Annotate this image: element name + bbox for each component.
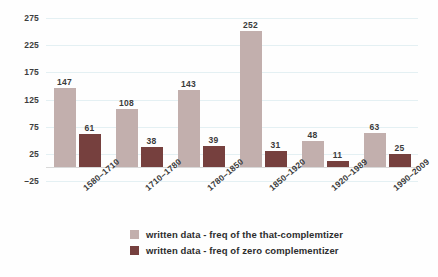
y-axis-tick-label: 175 xyxy=(24,67,39,77)
y-axis-tick-label: 275 xyxy=(24,13,39,23)
y-axis-tick-label: 25 xyxy=(29,149,39,159)
bar[interactable]: 143 xyxy=(178,90,200,168)
legend-swatch-icon xyxy=(130,246,139,255)
legend-item: written data - freq of zero complementiz… xyxy=(130,242,343,258)
bar-value-label: 63 xyxy=(370,122,380,132)
bar[interactable]: 61 xyxy=(79,134,101,167)
bar[interactable]: 252 xyxy=(240,31,262,168)
bar-value-label: 48 xyxy=(308,130,318,140)
bar-value-label: 61 xyxy=(85,123,95,133)
legend-item: written data - freq of the that-complemt… xyxy=(130,226,343,242)
y-axis-tick-label: 225 xyxy=(24,40,39,50)
bar-value-label: 31 xyxy=(271,140,281,150)
bar-value-label: 143 xyxy=(181,79,196,89)
legend-label: written data - freq of the that-complemt… xyxy=(146,229,343,240)
bar-value-label: 252 xyxy=(243,20,258,30)
bar[interactable]: 108 xyxy=(116,109,138,168)
bar[interactable]: 31 xyxy=(265,151,287,168)
bar-chart: 2752251751257525–25 14761108381433925231… xyxy=(0,0,438,277)
bar[interactable]: 11 xyxy=(327,161,349,167)
y-axis-tick-label: –25 xyxy=(24,176,39,186)
bar-value-label: 108 xyxy=(119,98,134,108)
bar[interactable]: 39 xyxy=(203,146,225,167)
legend-swatch-icon xyxy=(130,230,139,239)
bar-value-label: 39 xyxy=(209,135,219,145)
bar[interactable]: 38 xyxy=(141,147,163,168)
y-axis-tick-label: 125 xyxy=(24,95,39,105)
bar-value-label: 11 xyxy=(333,150,342,160)
y-axis-tick-label: 75 xyxy=(29,122,39,132)
bar-value-label: 147 xyxy=(57,77,72,87)
bar-value-label: 25 xyxy=(395,143,405,153)
chart-legend: written data - freq of the that-complemt… xyxy=(130,226,343,258)
bar[interactable]: 25 xyxy=(389,154,411,168)
bar-value-label: 38 xyxy=(147,136,157,146)
legend-label: written data - freq of zero complementiz… xyxy=(146,245,339,256)
bar[interactable]: 147 xyxy=(54,88,76,168)
